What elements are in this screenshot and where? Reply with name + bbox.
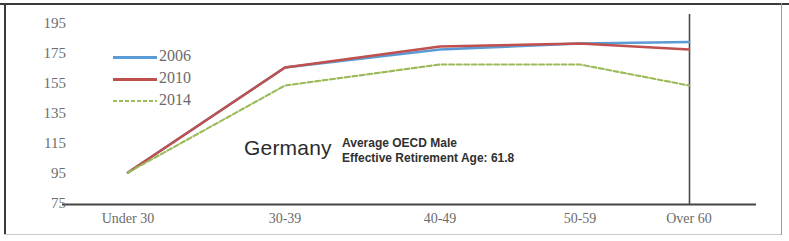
oecd-note-line-2: Effective Retirement Age: 61.8 [342,151,514,166]
plot-area: 195 175 155 135 115 95 75 Under 30 30-39… [0,0,789,241]
y-tick-115: 115 [24,136,66,151]
x-tick-over-60: Over 60 [624,211,754,227]
y-tick-75: 75 [24,196,66,211]
oecd-note-line-1: Average OECD Male [342,136,514,151]
legend-swatch-2010 [113,78,157,81]
x-tick-under-30: Under 30 [63,211,193,227]
y-tick-135: 135 [24,106,66,121]
legend-label-2010: 2010 [159,69,191,87]
y-tick-175: 175 [24,46,66,61]
legend-swatch-2006 [113,56,157,59]
chart-figure: 195 175 155 135 115 95 75 Under 30 30-39… [0,0,789,241]
oecd-note: Average OECD Male Effective Retirement A… [342,136,514,166]
x-tick-30-39: 30-39 [220,211,350,227]
country-label: Germany [244,136,332,160]
y-tick-95: 95 [24,166,66,181]
y-tick-155: 155 [24,76,66,91]
legend-swatch-2014 [113,100,157,102]
legend-label-2006: 2006 [159,47,191,65]
legend-label-2014: 2014 [159,91,191,109]
line-chart-svg [0,0,789,241]
y-tick-195: 195 [24,16,66,31]
x-tick-40-49: 40-49 [375,211,505,227]
